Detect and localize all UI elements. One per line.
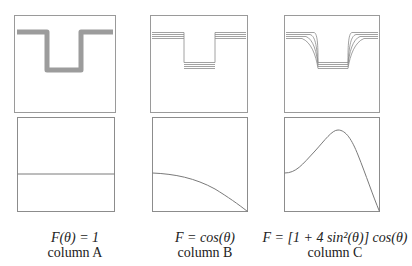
label-a: column A: [40, 245, 110, 260]
panel-b-bottom: [153, 118, 248, 212]
panel-a-bottom: [18, 118, 115, 212]
caption-a: F(θ) = 1 column A: [40, 230, 110, 260]
caption-b: F = cos(θ) column B: [160, 230, 250, 260]
figure-panels: [0, 0, 412, 266]
panel-a-top: [15, 16, 116, 113]
formula-b: F = cos(θ): [160, 230, 250, 245]
formula-a: F(θ) = 1: [40, 230, 110, 245]
curve-c: [285, 130, 380, 212]
curve-b: [153, 173, 248, 212]
label-b: column B: [160, 245, 250, 260]
caption-c: F = [1 + 4 sin²(θ)] cos(θ) column C: [258, 230, 412, 260]
panel-b-top: [151, 16, 248, 113]
label-c: column C: [258, 245, 412, 260]
formula-c: F = [1 + 4 sin²(θ)] cos(θ): [258, 230, 412, 245]
panel-c-bottom: [285, 118, 380, 212]
panel-c-top: [285, 16, 380, 113]
